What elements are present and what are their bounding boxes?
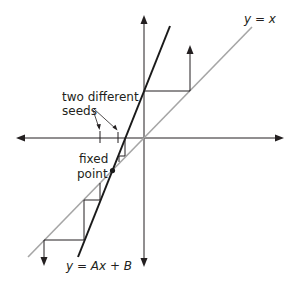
fixed-point-label-line1: fixed bbox=[79, 152, 108, 166]
fixed-point-label-line2: point bbox=[77, 167, 108, 181]
cobweb-upper bbox=[144, 45, 194, 91]
cobweb-down-arrow-icon bbox=[41, 257, 48, 266]
identity-line bbox=[28, 27, 252, 257]
diagram-canvas: y = x two different seeds fixed point y … bbox=[0, 0, 298, 283]
seeds-label-line2: seeds bbox=[62, 104, 97, 118]
cobweb-up-arrow-icon bbox=[187, 45, 194, 54]
map-line-label: y = Ax + B bbox=[65, 259, 132, 273]
seed-pointer-arrowhead-icon bbox=[113, 125, 118, 131]
x-axis bbox=[16, 135, 284, 142]
cobweb-diagram: y = x two different seeds fixed point y … bbox=[0, 0, 298, 283]
seed-markers bbox=[100, 131, 118, 143]
seeds-label-line1: two different bbox=[62, 90, 139, 104]
x-axis-left-arrow-icon bbox=[16, 135, 25, 142]
map-line bbox=[78, 26, 170, 257]
fixed-point-dot bbox=[110, 168, 115, 173]
y-axis-down-arrow-icon bbox=[141, 258, 148, 267]
seed-pointer-arrowhead-icon bbox=[97, 124, 101, 130]
identity-line-label: y = x bbox=[243, 12, 277, 26]
x-axis-right-arrow-icon bbox=[275, 135, 284, 142]
y-axis-up-arrow-icon bbox=[141, 15, 148, 24]
